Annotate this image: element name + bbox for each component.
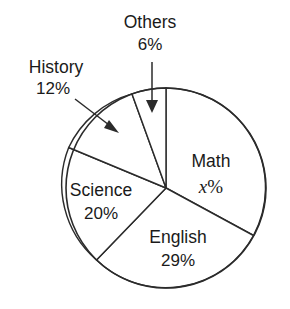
pie-chart-svg: Math x% English 29% Science 20% History … bbox=[0, 0, 290, 309]
pie-value-english: 29% bbox=[161, 251, 195, 270]
pie-value-history: 12% bbox=[36, 79, 70, 98]
pie-label-science: Science bbox=[70, 180, 132, 200]
pie-value-others: 6% bbox=[138, 35, 163, 54]
pie-label-math: Math bbox=[192, 151, 231, 171]
pie-value-math: x% bbox=[198, 176, 223, 197]
pie-label-others: Others bbox=[124, 12, 177, 32]
pie-label-history: History bbox=[29, 57, 84, 77]
pie-value-science: 20% bbox=[84, 204, 118, 223]
pie-label-english: English bbox=[149, 227, 206, 247]
pie-chart-figure: Math x% English 29% Science 20% History … bbox=[0, 0, 290, 309]
